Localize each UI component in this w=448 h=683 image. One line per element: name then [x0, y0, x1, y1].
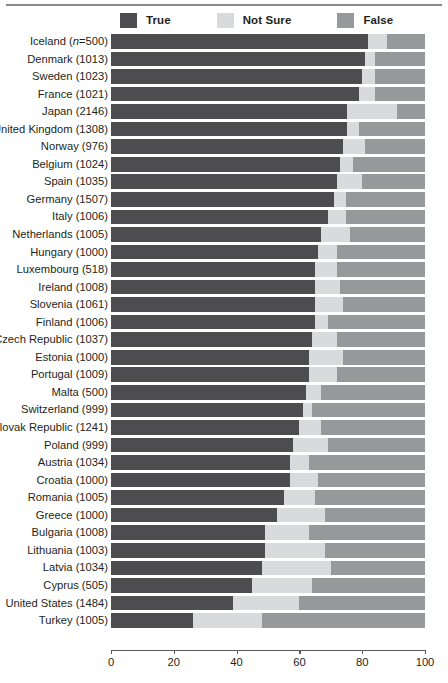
chart-row: Norway (976): [0, 138, 448, 156]
stacked-bar: [111, 332, 425, 347]
category-label: Finland (1006): [36, 314, 108, 332]
segment-not-sure: [193, 613, 262, 628]
stacked-bar: [111, 367, 425, 382]
chart-row: Romania (1005): [0, 489, 448, 507]
category-label: Netherlands (1005): [12, 226, 108, 244]
chart-row: Italy (1006): [0, 208, 448, 226]
segment-not-sure: [347, 122, 360, 137]
chart-row: Switzerland (999): [0, 401, 448, 419]
segment-true: [111, 262, 315, 277]
chart-row: Poland (999): [0, 437, 448, 455]
category-label: Turkey (1005): [39, 612, 108, 630]
stacked-bar: [111, 561, 425, 576]
segment-true: [111, 455, 290, 470]
segment-not-sure: [315, 297, 343, 312]
category-label: Norway (976): [41, 138, 108, 156]
stacked-bar: [111, 157, 425, 172]
segment-not-sure: [362, 69, 375, 84]
chart-row: Malta (500): [0, 384, 448, 402]
segment-true: [111, 192, 334, 207]
category-label: Malta (500): [51, 384, 108, 402]
legend-label: True: [146, 14, 171, 26]
segment-false: [365, 139, 425, 154]
segment-false: [321, 420, 425, 435]
segment-not-sure: [262, 561, 331, 576]
category-label: Bulgaria (1008): [32, 524, 109, 542]
segment-not-sure: [299, 420, 321, 435]
stacked-bar: [111, 525, 425, 540]
x-axis-tick-label: 0: [91, 656, 131, 668]
legend-swatch-not-sure: [217, 13, 234, 28]
stacked-bar: [111, 490, 425, 505]
segment-false: [309, 525, 425, 540]
segment-true: [111, 350, 309, 365]
category-label: Sweden (1023): [32, 68, 108, 86]
category-label: United States (1484): [5, 595, 108, 613]
category-label: Poland (999): [44, 437, 108, 455]
segment-false: [325, 543, 425, 558]
segment-not-sure: [315, 262, 337, 277]
segment-true: [111, 297, 315, 312]
stacked-bar: [111, 245, 425, 260]
chart-row: Bulgaria (1008): [0, 524, 448, 542]
x-axis-tick-label: 100: [405, 656, 445, 668]
stacked-bar: [111, 122, 425, 137]
segment-not-sure: [277, 508, 324, 523]
segment-not-sure: [312, 332, 337, 347]
segment-not-sure: [290, 473, 318, 488]
chart-row: Latvia (1034): [0, 559, 448, 577]
segment-not-sure: [309, 367, 337, 382]
stacked-bar: [111, 87, 425, 102]
chart-row: Cyprus (505): [0, 577, 448, 595]
segment-true: [111, 245, 318, 260]
segment-false: [343, 297, 425, 312]
chart-row: Finland (1006): [0, 314, 448, 332]
legend-label: Not Sure: [243, 14, 292, 26]
segment-not-sure: [309, 350, 344, 365]
legend-swatch-false: [337, 13, 354, 28]
stacked-bar: [111, 455, 425, 470]
segment-false: [340, 280, 425, 295]
category-label: Denmark (1013): [27, 51, 108, 69]
legend-entry-not-sure: Not Sure: [217, 13, 292, 28]
segment-false: [346, 210, 425, 225]
stacked-bar: [111, 52, 425, 67]
category-label: Luxembourg (518): [17, 261, 108, 279]
segment-true: [111, 596, 233, 611]
segment-false: [312, 403, 425, 418]
stacked-bar: [111, 578, 425, 593]
chart-row: Germany (1507): [0, 191, 448, 209]
segment-true: [111, 104, 347, 119]
segment-not-sure: [334, 192, 347, 207]
top-divider-rule: [6, 4, 442, 6]
segment-true: [111, 525, 265, 540]
chart-row: Iceland (n=500): [0, 33, 448, 51]
chart-row: Japan (2146): [0, 103, 448, 121]
segment-false: [328, 315, 425, 330]
segment-not-sure: [290, 455, 309, 470]
x-axis-tick: [174, 650, 175, 654]
segment-false: [337, 262, 425, 277]
stacked-bar: [111, 262, 425, 277]
stacked-bar: [111, 192, 425, 207]
stacked-bar: [111, 438, 425, 453]
stacked-bar: [111, 139, 425, 154]
category-label: Belgium (1024): [32, 156, 108, 174]
category-label: Slovenia (1061): [30, 296, 108, 314]
stacked-bar: [111, 210, 425, 225]
stacked-bar: [111, 227, 425, 242]
category-label: Latvia (1034): [43, 559, 108, 577]
chart-row: Denmark (1013): [0, 51, 448, 69]
segment-true: [111, 420, 299, 435]
segment-false: [343, 350, 425, 365]
chart-row: France (1021): [0, 86, 448, 104]
chart-row: Luxembourg (518): [0, 261, 448, 279]
segment-true: [111, 227, 321, 242]
segment-true: [111, 385, 306, 400]
chart-row: Ireland (1008): [0, 279, 448, 297]
segment-true: [111, 69, 362, 84]
stacked-bar: [111, 34, 425, 49]
chart-row: Greece (1000): [0, 507, 448, 525]
segment-false: [375, 87, 425, 102]
segment-false: [337, 332, 425, 347]
